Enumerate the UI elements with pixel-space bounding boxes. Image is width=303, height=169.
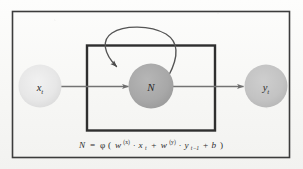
diagram-canvas: xt N yt N = φ ( w (x) · x t + w xyxy=(0,0,303,169)
node-input: xt xyxy=(19,65,62,108)
neuron-activation-formula: N = φ ( w (x) · x t + w (y) · y t−1 + b … xyxy=(78,136,223,152)
rnn-diagram-figure: xt N yt N = φ ( w (x) · x t + w xyxy=(0,0,303,169)
node-output: yt xyxy=(245,65,288,108)
neuron-node-label: N xyxy=(146,81,155,93)
node-neuron: N xyxy=(129,64,174,109)
